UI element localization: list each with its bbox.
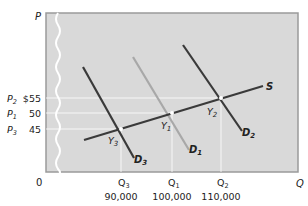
- x-axis-label: Q: [296, 178, 304, 189]
- x-tick-symbol-q2: Q2: [217, 177, 229, 190]
- y-axis-label: P: [35, 11, 42, 22]
- y-tick-value-p2: $55: [23, 93, 41, 104]
- equilibrium-point-y2: [219, 96, 223, 100]
- equilibrium-point-y3: [119, 127, 123, 131]
- y-tick-value-p3: 45: [29, 124, 41, 135]
- y-tick-value-p1: 50: [29, 108, 41, 119]
- y-tick-symbol-p1: P1: [7, 108, 17, 121]
- x-tick-symbol-q1: Q1: [168, 177, 180, 190]
- equilibrium-point-y1: [170, 111, 174, 115]
- x-tick-value-q2: 110,000: [201, 191, 240, 202]
- y-tick-symbol-p3: P3: [7, 124, 17, 137]
- supply-label: S: [266, 81, 273, 92]
- x-tick-symbol-q3: Q3: [118, 177, 130, 190]
- origin-label: 0: [36, 177, 42, 188]
- x-tick-value-q1: 100,000: [152, 191, 191, 202]
- y-tick-symbol-p2: P2: [7, 93, 17, 106]
- x-tick-value-q3: 90,000: [104, 191, 137, 202]
- supply-demand-chart: S D1 D2 D3 Y1 Y2 Y3 P Q 0 P2 $55 P1 50 P…: [0, 0, 308, 206]
